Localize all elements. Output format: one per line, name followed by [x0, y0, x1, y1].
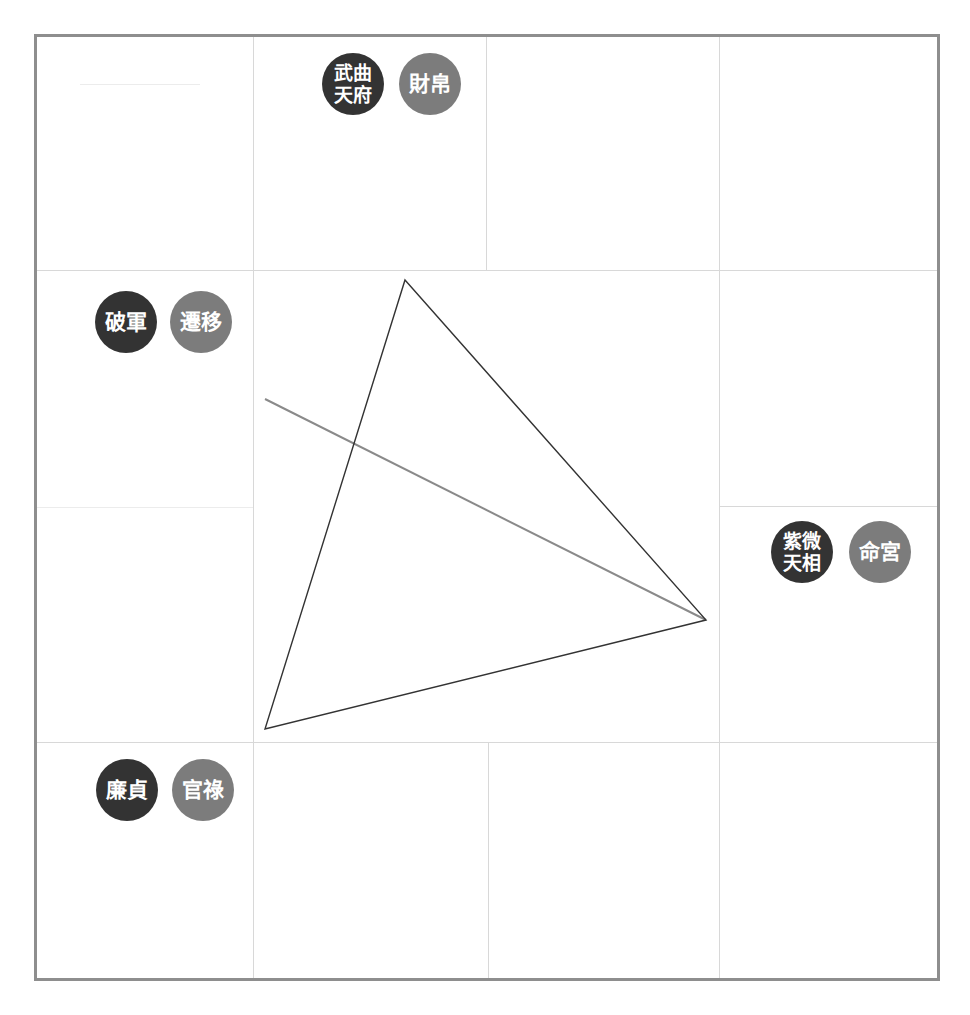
triangle-overlay	[0, 0, 970, 1015]
palace-chart: 武曲 天府 財帛 破軍 遷移 紫微 天相 命宮 廉貞 官祿	[0, 0, 970, 1015]
trine-triangle	[265, 280, 706, 729]
opposition-line	[265, 399, 706, 620]
